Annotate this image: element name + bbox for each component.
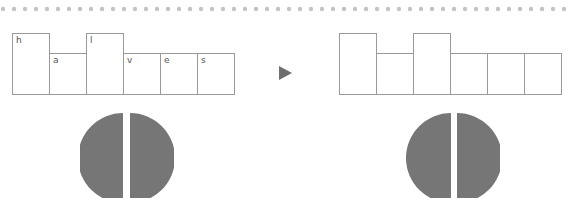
letter-label: e	[164, 55, 170, 65]
letter-box	[376, 53, 414, 95]
letter-box: l	[86, 33, 124, 95]
letter-box	[413, 33, 451, 95]
letter-box: h	[12, 33, 50, 95]
circle-left-half	[406, 113, 451, 198]
letter-box	[450, 53, 488, 95]
circle-right-half	[130, 113, 174, 198]
split-circle-right	[406, 111, 500, 198]
dotted-divider	[0, 6, 575, 12]
letter-label: s	[201, 55, 206, 65]
split-circle-left	[80, 111, 174, 198]
circle-left-half	[80, 113, 123, 198]
letter-box	[339, 33, 377, 95]
letter-box: a	[49, 53, 87, 95]
letter-box: s	[197, 53, 235, 95]
play-triangle-icon	[279, 66, 292, 80]
letter-box	[524, 53, 562, 95]
letter-label: a	[53, 55, 59, 65]
letter-label: h	[16, 35, 22, 45]
letter-box: v	[123, 53, 161, 95]
letter-box	[487, 53, 525, 95]
letter-label: v	[127, 55, 132, 65]
letter-box: e	[160, 53, 198, 95]
circle-right-half	[457, 113, 500, 198]
letter-label: l	[90, 35, 93, 45]
